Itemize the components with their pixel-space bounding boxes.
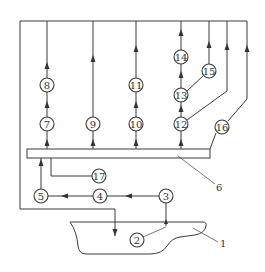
arrow-up-icon: [91, 55, 96, 62]
node-label: 9: [90, 119, 96, 130]
header-bar: [27, 149, 210, 158]
arrow-up-icon: [45, 139, 50, 146]
node-15: 15: [202, 64, 216, 78]
node-label: 14: [175, 52, 188, 63]
arrow-up-icon: [45, 101, 50, 108]
node-label: 4: [97, 191, 103, 202]
node-8: 8: [40, 78, 54, 92]
node-11: 11: [129, 78, 143, 92]
node-17: 17: [92, 169, 106, 183]
node-label: 17: [93, 171, 106, 182]
arrow-up-icon: [179, 139, 184, 146]
node-16: 16: [215, 120, 229, 134]
node-label: 3: [163, 191, 169, 202]
return-line: [20, 21, 115, 236]
arrow-up-icon: [134, 101, 139, 108]
node-label: 10: [130, 119, 143, 130]
node-label: 12: [175, 119, 188, 130]
arrow-up-icon: [207, 41, 212, 48]
node-5: 5: [34, 189, 48, 203]
node-3: 3: [159, 189, 173, 203]
arrow-up-icon: [134, 45, 139, 52]
node-label: 16: [216, 122, 229, 133]
arrow-up-icon: [45, 62, 50, 69]
node-4: 4: [93, 189, 107, 203]
node-label: 7: [44, 119, 50, 130]
node-2: 2: [130, 233, 144, 247]
node-label: 15: [203, 66, 216, 77]
arrow-left-icon: [125, 194, 132, 199]
arrow-up-icon: [179, 71, 184, 78]
arrow-up-icon: [91, 139, 96, 146]
arrow-up-icon: [225, 43, 230, 50]
node-label: 11: [130, 80, 143, 91]
arrow-up-icon: [245, 45, 250, 52]
arrow-left-icon: [61, 194, 68, 199]
node-label: 5: [38, 191, 44, 202]
process-diagram: 1 6 8 7 9 11 10 14 15 13 12 16 17 5 4 3 …: [0, 0, 265, 272]
node-label: 2: [134, 235, 140, 246]
node-label: 13: [175, 90, 188, 101]
node-7: 7: [40, 117, 54, 131]
callout-6: 6: [216, 182, 222, 193]
node-12: 12: [174, 117, 188, 131]
arrow-down-icon: [113, 229, 118, 236]
callout-1: 1: [220, 238, 226, 249]
arrow-up-icon: [134, 139, 139, 146]
node-9: 9: [86, 117, 100, 131]
node-13: 13: [174, 88, 188, 102]
node-label: 8: [44, 80, 50, 91]
node-14: 14: [174, 50, 188, 64]
node-10: 10: [129, 117, 143, 131]
arrow-up-icon: [179, 105, 184, 112]
arrow-up-icon: [179, 29, 184, 36]
arrow-up-icon: [39, 159, 44, 166]
